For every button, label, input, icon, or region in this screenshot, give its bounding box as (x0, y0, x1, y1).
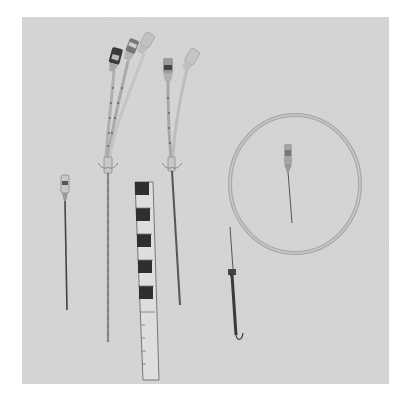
photo-canvas (22, 17, 389, 384)
catheter-kit-photo (22, 17, 389, 384)
